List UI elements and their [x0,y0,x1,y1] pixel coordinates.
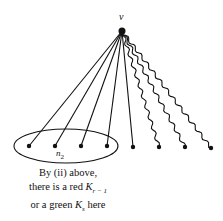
vertex-v-label: v [119,11,123,22]
leaf-vertex [183,145,187,149]
edges [29,31,211,148]
leaf-vertex [105,144,109,148]
caption-line-1: By (ii) above, [0,166,136,180]
leaf-vertex [79,144,83,148]
caption-line-2: there is a red Kr − 1 [0,180,136,198]
red-clique-symbol: K [86,181,93,192]
leaf-vertex [27,144,31,148]
caption-line-3-suffix: here [85,199,106,210]
straight-edge [107,31,122,146]
wavy-edge [122,31,211,148]
straight-edge [81,31,122,146]
graph-diagram: v n2 By (ii) above, there is a red Kr − … [0,0,223,221]
leaf-vertex [209,146,213,150]
red-clique-subscript: r − 1 [93,187,107,195]
caption-line-3-text: or a green [30,199,75,210]
leaf-vertex [131,145,135,149]
leaf-vertex [157,145,161,149]
caption: By (ii) above, there is a red Kr − 1 or … [0,166,136,216]
caption-line-2-text: there is a red [29,181,86,192]
caption-line-3: or a green Ks here [0,198,136,216]
n2-label: n2 [56,148,64,161]
n2-label-sub: 2 [61,153,65,161]
vertex-v [119,28,126,35]
straight-edge [122,31,133,147]
